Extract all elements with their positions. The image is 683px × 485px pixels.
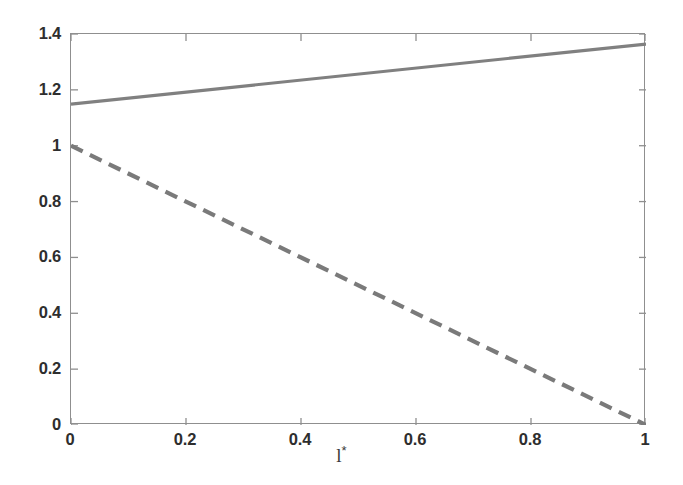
y-axis-tick-label: 1 <box>0 135 61 154</box>
plot-area <box>70 33 645 424</box>
y-axis-tick-label: 0.4 <box>0 303 61 322</box>
chart-figure: 00.20.40.60.811.21.4 00.20.40.60.81 l* <box>0 0 683 485</box>
dashed-line <box>71 146 646 425</box>
x-axis-label-superscript: * <box>342 443 347 458</box>
plot-lines-svg <box>71 34 646 425</box>
y-axis-tick-label: 0 <box>0 415 61 434</box>
y-axis-tick-label: 0.6 <box>0 247 61 266</box>
data-series-group <box>71 44 646 425</box>
y-axis-tick-label: 1.2 <box>0 79 61 98</box>
solid-line <box>71 44 646 104</box>
y-axis-tick-label: 1.4 <box>0 24 61 43</box>
y-axis-tick-label: 0.8 <box>0 191 61 210</box>
y-axis-tick-label: 0.2 <box>0 359 61 378</box>
x-axis-label: l* <box>0 444 683 465</box>
axis-ticks-group <box>71 34 646 425</box>
